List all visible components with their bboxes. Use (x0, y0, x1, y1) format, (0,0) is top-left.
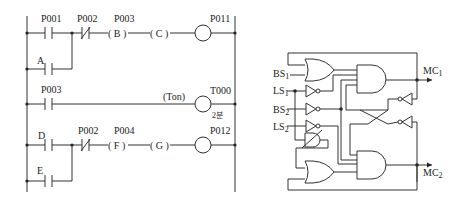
slot-g: ( G ) (150, 140, 169, 152)
or-gate-1 (305, 59, 334, 81)
label-p004: P004 (114, 125, 135, 136)
label-t000: T000 (210, 85, 231, 96)
rung-2: P003 (Ton) T000 2분 (25, 84, 236, 120)
rung-1: P001 P002 P003 ( B ) ( C ) P011 A (25, 13, 236, 75)
rung-3: D P002 P004 ( F ) ( G ) P012 E (25, 125, 236, 187)
label-mc2: MC2 (423, 167, 443, 180)
not-gate-fb2 (402, 116, 412, 128)
label-mc1: MC1 (423, 65, 443, 78)
label-ton: (Ton) (163, 91, 185, 103)
label-p002-rung3: P002 (78, 125, 99, 136)
label-ls1: LS1 (273, 85, 289, 98)
label-d: D (38, 130, 45, 141)
diagram-canvas: P001 P002 P003 ( B ) ( C ) P011 A P003 (… (0, 0, 463, 202)
label-p012: P012 (210, 125, 231, 136)
and-gate-2 (357, 151, 386, 179)
label-a: A (37, 55, 45, 66)
label-p003: P003 (114, 13, 135, 24)
label-ls2: LS2 (273, 121, 289, 134)
label-p001: P001 (41, 13, 62, 24)
not-gate-fb1 (402, 93, 412, 105)
coil-p012 (195, 137, 211, 153)
label-bs2: BS2 (273, 104, 289, 117)
ladder-diagram: P001 P002 P003 ( B ) ( C ) P011 A P003 (… (25, 13, 236, 192)
not-gate-ls1 (306, 85, 316, 97)
logic-diagram: BS1 LS1 BS2 LS2 MC1 MC2 (273, 53, 443, 190)
or-gate-2 (305, 161, 334, 183)
not-gate-ls2 (306, 120, 316, 132)
label-p002: P002 (77, 13, 98, 24)
slot-f: ( F ) (108, 140, 125, 152)
label-p011: P011 (210, 13, 230, 24)
label-e: E (37, 165, 43, 176)
label-preset: 2분 (212, 111, 223, 120)
slot-c: ( C ) (150, 28, 168, 40)
delay-element (305, 133, 320, 147)
coil-p011 (195, 25, 211, 41)
coil-t000 (195, 96, 211, 112)
label-bs1: BS1 (273, 68, 289, 81)
slot-b: ( B ) (108, 28, 126, 40)
and-gate-1 (357, 65, 386, 93)
label-p003-rung2: P003 (41, 84, 62, 95)
not-gate-bs2 (306, 103, 316, 115)
